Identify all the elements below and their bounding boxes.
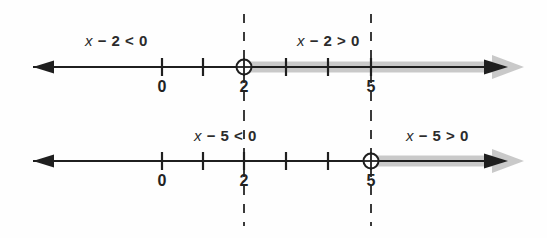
number-line-graphics — [0, 0, 547, 238]
bottom-tick-label-5: 5 — [361, 172, 381, 190]
bottom-tick-label-0: 0 — [152, 172, 172, 190]
bottom-left-inequality-label: x − 5 < 0 — [194, 127, 257, 144]
top-left-variable: x — [85, 32, 93, 49]
top-tick-label-0: 0 — [152, 78, 172, 96]
bottom-left-variable: x — [194, 127, 202, 144]
bottom-right-variable: x — [406, 127, 414, 144]
top-left-expression: − 2 < 0 — [93, 32, 148, 49]
bottom-right-inequality-label: x − 5 > 0 — [406, 127, 469, 144]
bottom-right-expression: − 5 > 0 — [414, 127, 469, 144]
bottom-left-expression: − 5 < 0 — [202, 127, 257, 144]
number-line-figure: x − 2 < 0 x − 2 > 0 0 2 5 x − 5 < 0 x − … — [0, 0, 547, 238]
top-right-variable: x — [297, 32, 305, 49]
bottom-tick-label-2: 2 — [234, 172, 254, 190]
top-right-expression: − 2 > 0 — [305, 32, 360, 49]
top-right-inequality-label: x − 2 > 0 — [297, 32, 360, 49]
bottom-open-circle-at-5 — [362, 152, 380, 170]
top-left-inequality-label: x − 2 < 0 — [85, 32, 148, 49]
top-tick-label-2: 2 — [234, 78, 254, 96]
top-tick-label-5: 5 — [361, 78, 381, 96]
top-open-circle-at-2 — [235, 58, 253, 76]
